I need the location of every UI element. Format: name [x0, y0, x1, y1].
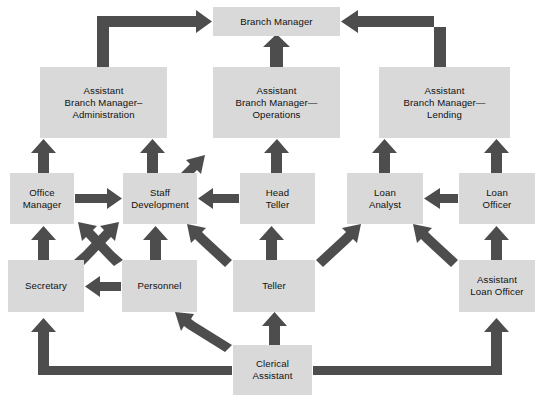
node-secretary-label: Secretary — [23, 280, 69, 292]
edge-secretary-to-office-manager — [31, 226, 56, 260]
node-teller-label: Teller — [260, 280, 288, 292]
edge-lending-to-manager — [341, 10, 446, 67]
node-assistant-branch-manager-lending[interactable]: Assistant Branch Manager— Lending — [379, 67, 510, 138]
node-assistant-branch-manager-operations-label: Assistant Branch Manager— Operations — [233, 85, 319, 121]
node-personnel[interactable]: Personnel — [122, 260, 197, 312]
node-clerical-assistant[interactable]: Clerical Assistant — [233, 345, 312, 395]
node-staff-development[interactable]: Staff Development — [123, 173, 197, 224]
edge-head-teller-to-operations — [264, 139, 289, 173]
node-assistant-branch-manager-administration-label: Assistant Branch Manager– Administration — [63, 85, 145, 121]
node-loan-officer[interactable]: Loan Officer — [459, 173, 535, 224]
node-loan-analyst-label: Loan Analyst — [367, 187, 403, 211]
node-assistant-loan-officer-label: Assistant Loan Officer — [468, 274, 525, 298]
node-office-manager-label: Office Manager — [21, 187, 64, 211]
edge-operations-to-manager — [263, 34, 290, 67]
node-staff-development-label: Staff Development — [129, 187, 191, 211]
edge-assistant-loan-officer-to-loan-officer — [484, 226, 509, 260]
edge-clerical-assistant-to-personnel — [175, 312, 232, 352]
node-loan-analyst[interactable]: Loan Analyst — [347, 173, 423, 224]
node-assistant-branch-manager-operations[interactable]: Assistant Branch Manager— Operations — [213, 67, 340, 138]
node-office-manager[interactable]: Office Manager — [10, 173, 74, 224]
edge-staff-development-to-admin — [140, 139, 165, 173]
edge-loan-analyst-to-lending — [372, 139, 397, 173]
org-chart: Branch Manager Assistant Branch Manager–… — [0, 0, 546, 407]
node-clerical-assistant-label: Clerical Assistant — [251, 358, 295, 382]
edge-teller-to-loan-analyst — [316, 224, 361, 267]
edge-head-teller-to-staff-development — [198, 188, 239, 209]
edge-personnel-to-secretary — [85, 276, 121, 297]
node-secretary[interactable]: Secretary — [8, 260, 84, 312]
node-branch-manager-label: Branch Manager — [238, 16, 314, 28]
edge-assistant-loan-officer-to-loan-analyst — [413, 224, 458, 267]
node-head-teller-label: Head Teller — [264, 187, 292, 211]
edge-office-manager-to-admin — [31, 139, 56, 173]
node-loan-officer-label: Loan Officer — [481, 187, 514, 211]
edge-office-manager-to-staff-development — [75, 188, 122, 209]
node-head-teller[interactable]: Head Teller — [240, 173, 315, 224]
edge-loan-officer-to-loan-analyst — [424, 188, 458, 209]
node-assistant-branch-manager-administration[interactable]: Assistant Branch Manager– Administration — [40, 67, 167, 138]
edge-admin-to-manager — [97, 10, 212, 67]
edge-loan-officer-to-lending — [484, 139, 509, 173]
node-branch-manager[interactable]: Branch Manager — [213, 7, 340, 36]
edge-teller-to-head-teller — [259, 226, 284, 260]
node-teller[interactable]: Teller — [233, 260, 315, 312]
edge-clerical-assistant-to-assistant-loan-officer — [313, 318, 509, 375]
node-assistant-loan-officer[interactable]: Assistant Loan Officer — [459, 260, 535, 312]
edge-personnel-to-staff-development — [143, 226, 168, 260]
node-personnel-label: Personnel — [135, 280, 183, 292]
node-assistant-branch-manager-lending-label: Assistant Branch Manager— Lending — [401, 85, 487, 121]
edge-clerical-assistant-to-teller — [262, 312, 287, 345]
